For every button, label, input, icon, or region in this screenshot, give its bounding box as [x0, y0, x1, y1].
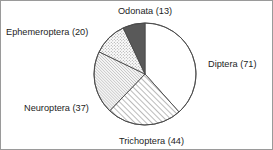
pie-chart-svg: Odonata (13) Ephemeroptera (20) Diptera …: [1, 1, 273, 150]
slice-label-diptera: Diptera (71): [208, 59, 257, 69]
slice-label-ephemeroptera: Ephemeroptera (20): [6, 27, 88, 37]
pie-chart-figure: Odonata (13) Ephemeroptera (20) Diptera …: [0, 0, 273, 150]
slice-label-neuroptera: Neuroptera (37): [24, 103, 89, 113]
slice-label-odonata: Odonata (13): [118, 6, 172, 16]
pie-slices: [94, 23, 196, 125]
slice-label-trichoptera: Trichoptera (44): [119, 136, 184, 146]
